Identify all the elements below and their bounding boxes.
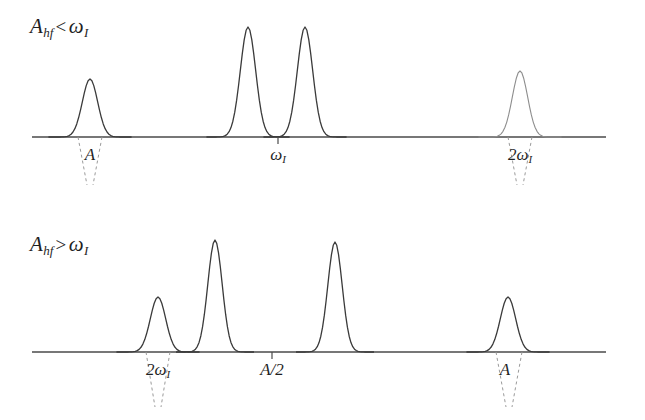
panel-upper-condition-label: Ahf<ωI	[30, 14, 88, 41]
label-symbol: A	[30, 14, 43, 38]
annotation-text: 2ω	[146, 360, 167, 379]
label-relation: <	[53, 16, 68, 37]
spectral-peak-2	[176, 240, 254, 352]
annotation-subscript: I	[166, 368, 170, 380]
spectral-peak-1	[48, 79, 131, 137]
annotation-text: 2ω	[508, 145, 529, 164]
spectral-peak-4	[466, 297, 549, 352]
annotation-text: A/2	[260, 360, 284, 379]
spectral-peak-2	[206, 27, 289, 137]
label-compared: ω	[69, 14, 84, 38]
panel-lower-condition-label: Ahf>ωI	[30, 232, 88, 259]
panel-upper-annotation-A: A	[85, 145, 95, 165]
label-compared: ω	[69, 232, 84, 256]
label-symbol: A	[30, 232, 43, 256]
spectral-peak-3	[263, 27, 346, 137]
panel-lower-annotation-A: A	[500, 360, 510, 380]
spectra-svg	[0, 0, 645, 420]
label-compared-subscript: I	[84, 25, 88, 40]
spectral-peak-3	[296, 242, 374, 352]
spectral-peak-1	[116, 297, 199, 352]
label-subscript: hf	[43, 25, 53, 40]
annotation-text: A	[500, 360, 510, 379]
annotation-subscript: I	[282, 153, 286, 165]
guide-line	[512, 352, 522, 407]
label-relation: >	[53, 234, 68, 255]
label-subscript: hf	[43, 243, 53, 258]
panel-lower-annotation-A-over-2: A/2	[260, 360, 284, 380]
panel-lower-annotation-2-omega-I: 2ωI	[146, 360, 170, 380]
annotation-subscript: I	[528, 153, 532, 165]
label-compared-subscript: I	[84, 243, 88, 258]
spectra-figure: Ahf<ωIAωI2ωIAhf>ωI2ωIA/2A	[0, 0, 645, 420]
annotation-text: ω	[270, 145, 282, 164]
panel-upper-annotation-2-omega-I: 2ωI	[508, 145, 532, 165]
panel-lower	[32, 240, 606, 407]
annotation-text: A	[85, 145, 95, 164]
panel-upper-annotation-omega-I: ωI	[270, 145, 286, 165]
spectral-peak-4	[478, 71, 561, 137]
